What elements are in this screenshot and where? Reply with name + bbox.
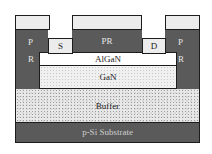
right-pr-letter-p: P	[178, 38, 183, 47]
substrate-label: p-Si Substrate	[15, 128, 200, 137]
right-photoresist-upper	[165, 29, 176, 52]
middle-pr-label: PR	[72, 37, 142, 46]
drain-label: D	[142, 42, 166, 51]
right-top-mask	[165, 15, 200, 30]
gan-label: GaN	[39, 73, 177, 82]
right-pr-letter-r: R	[178, 55, 184, 64]
source-label: S	[48, 42, 73, 51]
buffer-label: Buffer	[15, 102, 200, 111]
algan-label: AlGaN	[39, 55, 177, 64]
left-pr-letter-p: P	[28, 38, 33, 47]
left-photoresist-upper	[40, 29, 48, 52]
left-pr-letter-r: R	[28, 55, 34, 64]
middle-top-mask	[72, 15, 142, 30]
left-top-mask	[15, 15, 50, 30]
